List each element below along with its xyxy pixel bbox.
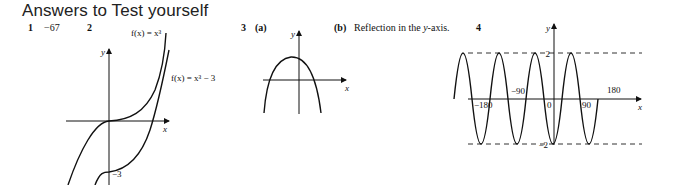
y-axis-label: y	[545, 23, 550, 33]
tick-label-90: 90	[582, 100, 592, 110]
curve1-label: f(x) = x³	[131, 28, 162, 38]
intercept-label: −3	[112, 169, 122, 179]
x-axis-label: x	[162, 124, 167, 134]
tick-label-neg-180: −180	[474, 100, 493, 110]
question-3a-graph: y x	[263, 29, 349, 114]
question-2-graph: y x f(x) = x³ f(x) = x³ − 3 −3	[66, 28, 216, 185]
y-axis-label: y	[100, 47, 105, 57]
curve2-label: f(x) = x³ − 3	[171, 73, 216, 83]
max-label: 2	[546, 49, 551, 59]
curve-x-cubed-minus-3	[95, 50, 169, 185]
tick-label-neg-90: −90	[511, 86, 526, 96]
tick-label-0: 0	[547, 100, 552, 110]
tick-label-180: 180	[607, 85, 621, 95]
question-4-graph: y x 2 −2 −180 −90 0 90 180	[454, 23, 642, 150]
y-axis-label: y	[290, 29, 295, 39]
x-axis-label: x	[344, 83, 349, 93]
curve-x-cubed	[68, 33, 166, 185]
min-label: −2	[538, 140, 548, 150]
x-axis-label: x	[637, 102, 642, 112]
parabola-curve	[264, 57, 321, 113]
